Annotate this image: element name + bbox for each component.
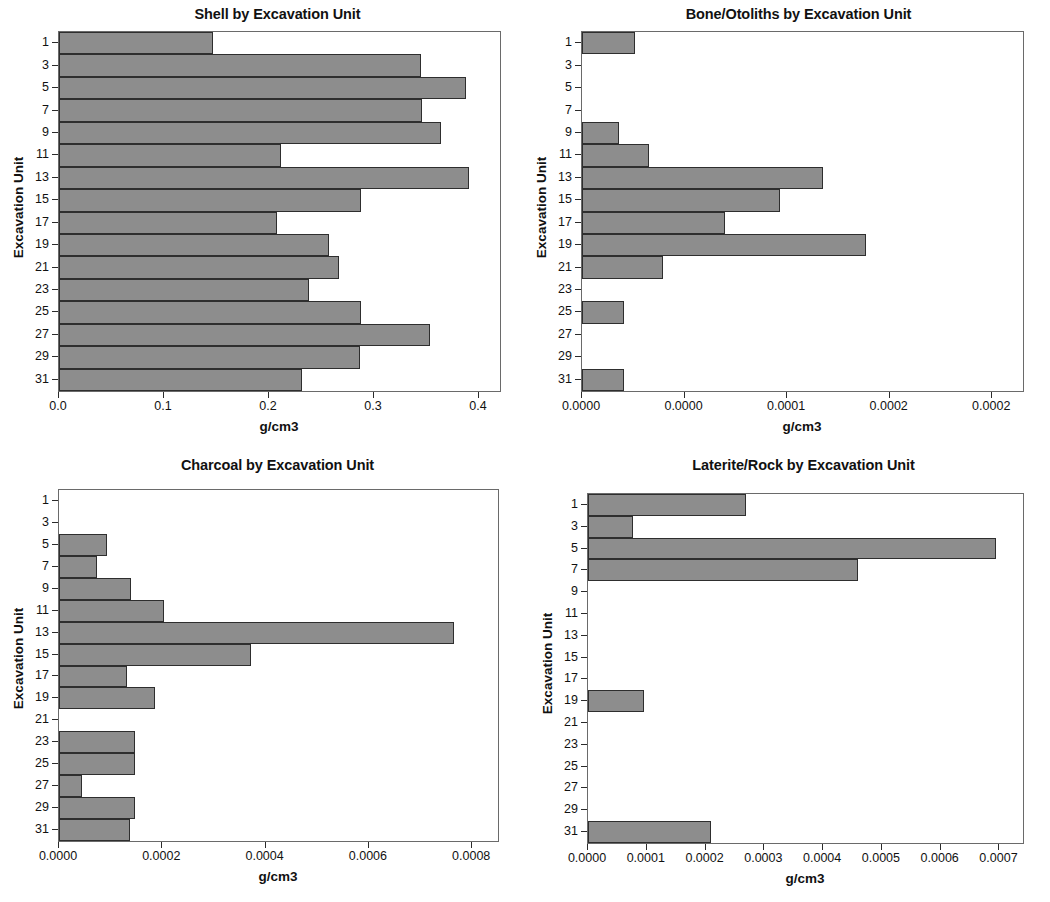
y-tick-label: 13 <box>35 625 49 639</box>
y-tick-label: 29 <box>558 349 572 363</box>
y-tick <box>575 289 581 290</box>
y-tick <box>52 42 58 43</box>
x-tick <box>786 392 787 398</box>
x-tick-label: 0.2 <box>259 399 276 413</box>
y-tick-label: 5 <box>571 541 578 555</box>
y-tick-label: 11 <box>36 603 49 617</box>
x-tick-label: 0.0001 <box>767 399 805 413</box>
x-tick-label: 0.0006 <box>921 851 959 865</box>
y-tick <box>52 544 58 545</box>
y-tick-label: 11 <box>559 147 572 161</box>
x-tick <box>998 844 999 850</box>
y-tick <box>581 831 587 832</box>
y-axis-bone-otoliths: 135791113151719212325272931 <box>525 31 581 392</box>
y-tick-label: 31 <box>558 372 572 386</box>
x-tick-label: 0.0002 <box>685 851 723 865</box>
y-tick-label: 23 <box>35 282 49 296</box>
y-tick-label: 27 <box>558 327 572 341</box>
chart-title-shell: Shell by Excavation Unit <box>0 6 525 22</box>
x-tick <box>58 842 59 848</box>
plot-area-shell <box>58 31 501 392</box>
y-tick <box>52 654 58 655</box>
x-axis-title-shell: g/cm3 <box>259 419 298 434</box>
bar <box>59 234 329 256</box>
y-tick-label: 7 <box>565 103 572 117</box>
y-tick <box>52 267 58 268</box>
bar <box>59 369 302 391</box>
y-tick-label: 15 <box>35 647 49 661</box>
x-tick-label: 0.0002 <box>142 849 180 863</box>
y-tick <box>52 588 58 589</box>
y-tick <box>52 500 58 501</box>
x-tick <box>268 392 269 398</box>
x-tick <box>822 844 823 850</box>
bar <box>582 32 635 54</box>
x-tick-label: 0.0001 <box>627 851 665 865</box>
y-tick <box>52 334 58 335</box>
y-tick-label: 21 <box>35 260 49 274</box>
bar <box>59 301 361 323</box>
x-tick <box>373 392 374 398</box>
x-tick-label: 0.0008 <box>452 849 490 863</box>
y-tick-label: 5 <box>42 80 49 94</box>
figure-grid: Shell by Excavation Unit Excavation Unit… <box>0 0 1050 902</box>
y-tick-label: 31 <box>564 824 578 838</box>
y-tick-label: 11 <box>565 606 578 620</box>
y-tick-label: 13 <box>35 170 49 184</box>
y-tick-label: 11 <box>36 147 49 161</box>
y-tick-label: 19 <box>35 237 49 251</box>
y-tick <box>575 311 581 312</box>
bar <box>582 234 866 256</box>
y-tick <box>52 719 58 720</box>
y-tick <box>52 199 58 200</box>
y-axis-charcoal: 135791113151719212325272931 <box>0 489 58 842</box>
y-tick <box>52 741 58 742</box>
x-tick <box>58 392 59 398</box>
plot-area-bone-otoliths <box>581 31 1024 392</box>
y-tick <box>575 42 581 43</box>
y-tick-label: 25 <box>35 756 49 770</box>
x-tick-label: 0.0004 <box>245 849 283 863</box>
y-tick-label: 23 <box>35 734 49 748</box>
y-tick <box>52 154 58 155</box>
x-tick <box>881 844 882 850</box>
y-tick-label: 27 <box>35 778 49 792</box>
y-tick-label: 13 <box>564 628 578 642</box>
bar <box>59 775 82 797</box>
x-tick-label: 0.1 <box>154 399 171 413</box>
y-tick-label: 21 <box>558 260 572 274</box>
x-tick <box>161 842 162 848</box>
y-tick-label: 15 <box>558 192 572 206</box>
y-tick <box>581 809 587 810</box>
y-tick-label: 13 <box>558 170 572 184</box>
x-tick <box>265 842 266 848</box>
y-tick-label: 17 <box>558 215 572 229</box>
y-tick-label: 29 <box>564 802 578 816</box>
bar <box>59 32 213 54</box>
bar <box>582 301 624 323</box>
y-tick <box>52 87 58 88</box>
y-tick <box>581 613 587 614</box>
x-tick-label: 0.0000 <box>39 849 77 863</box>
y-tick-label: 21 <box>35 712 49 726</box>
y-tick-label: 5 <box>42 537 49 551</box>
x-axis-title-charcoal: g/cm3 <box>258 869 297 884</box>
y-tick-label: 5 <box>565 80 572 94</box>
bar <box>59 144 281 166</box>
y-tick-label: 31 <box>35 822 49 836</box>
y-tick <box>52 289 58 290</box>
x-tick <box>889 392 890 398</box>
y-axis-laterite-rock: 135791113151719212325272931 <box>525 493 587 844</box>
x-tick-label: 0.4 <box>469 399 486 413</box>
x-tick <box>991 392 992 398</box>
y-tick-label: 29 <box>35 800 49 814</box>
y-tick-label: 23 <box>564 737 578 751</box>
y-tick-label: 7 <box>42 559 49 573</box>
bar-series-bone-otoliths <box>582 32 1023 391</box>
y-tick-label: 9 <box>565 125 572 139</box>
y-tick <box>52 763 58 764</box>
x-tick <box>763 844 764 850</box>
y-tick-label: 1 <box>42 35 49 49</box>
y-tick <box>575 154 581 155</box>
y-tick <box>575 87 581 88</box>
